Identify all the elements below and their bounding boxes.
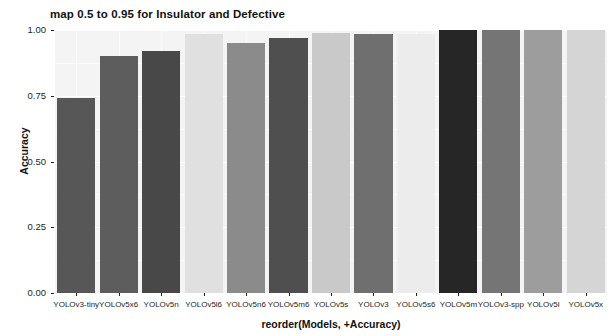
plot-panel [55,30,607,293]
y-tick-mark [51,30,54,31]
bar[interactable] [227,43,265,293]
x-tick-label: YOLOv3 [358,300,389,309]
x-tick-mark [289,293,290,296]
x-tick-label: YOLOv5m [440,300,477,309]
x-tick-label: YOLOv3-tiny [53,300,99,309]
x-tick-label: YOLOv5x6 [99,300,138,309]
y-tick-mark [51,293,54,294]
bar[interactable] [482,30,520,293]
bar[interactable] [312,33,350,293]
x-tick-mark [76,293,77,296]
y-tick-mark [51,227,54,228]
bar[interactable] [439,30,477,293]
bar[interactable] [100,56,138,293]
x-tick-mark [119,293,120,296]
x-tick-mark [204,293,205,296]
x-tick-mark [331,293,332,296]
bar[interactable] [397,34,435,293]
y-tick-label: 0.25 [0,221,46,232]
x-tick-mark [416,293,417,296]
y-tick-label: 1.00 [0,24,46,35]
y-tick-mark [51,96,54,97]
x-tick-label: YOLOv5m6 [268,300,310,309]
x-tick-label: YOLOv5l [527,300,559,309]
x-tick-mark [373,293,374,296]
x-tick-label: YOLOv5l6 [185,300,222,309]
x-tick-mark [543,293,544,296]
y-axis-label: Accuracy [18,91,30,211]
x-tick-label: YOLOv5n [144,300,179,309]
chart-title: map 0.5 to 0.95 for Insulator and Defect… [50,8,285,20]
x-tick-mark [161,293,162,296]
bar[interactable] [57,98,95,293]
y-tick-label: 0.50 [0,156,46,167]
x-tick-label: YOLOv5n6 [226,300,266,309]
bar-chart: map 0.5 to 0.95 for Insulator and Defect… [0,0,615,336]
x-tick-mark [501,293,502,296]
bar[interactable] [567,30,605,293]
bar[interactable] [524,30,562,293]
y-tick-mark [51,162,54,163]
bar[interactable] [354,34,392,293]
x-tick-mark [586,293,587,296]
x-tick-label: YOLOv5s [314,300,349,309]
bar[interactable] [269,38,307,293]
x-tick-label: YOLOv3-spp [478,300,524,309]
x-tick-label: YOLOv5s6 [396,300,435,309]
x-axis-label: reorder(Models, +Accuracy) [55,318,607,330]
y-tick-label: 0.00 [0,287,46,298]
x-tick-label: YOLOv5x [568,300,603,309]
bar[interactable] [142,51,180,293]
y-tick-label: 0.75 [0,90,46,101]
bar[interactable] [185,34,223,293]
x-tick-mark [458,293,459,296]
x-tick-mark [246,293,247,296]
